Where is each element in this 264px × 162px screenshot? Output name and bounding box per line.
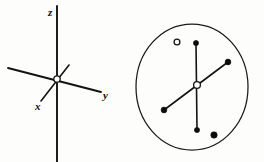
figure-root: z y x	[0, 0, 264, 162]
vertical-top-dot	[193, 40, 198, 45]
free-open-circle	[174, 39, 180, 45]
center-open-circle	[194, 82, 201, 89]
orbital-canvas	[130, 0, 264, 162]
circular-orbital-diagram	[130, 0, 264, 162]
free-filled-dot	[211, 132, 217, 138]
origin-node	[54, 76, 60, 82]
x-axis-label: x	[34, 100, 41, 112]
z-axis-label: z	[47, 6, 53, 18]
diagonal-lower-left-dot	[161, 107, 167, 113]
outer-circle	[136, 24, 248, 150]
y-axis-label: y	[101, 89, 108, 101]
cartesian-axes-diagram: z y x	[0, 0, 132, 162]
axes-canvas: z y x	[0, 0, 132, 162]
vertical-bottom-dot	[194, 127, 199, 132]
diagonal-upper-right-dot	[225, 59, 231, 65]
